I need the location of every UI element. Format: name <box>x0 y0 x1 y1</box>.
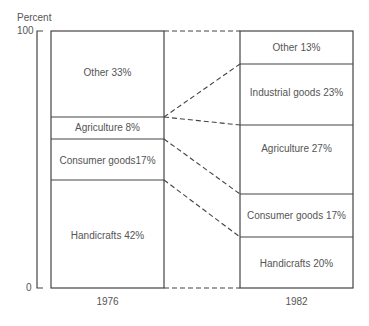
segment-label-1982-industrial-goods: Industrial goods 23% <box>240 87 353 98</box>
bar-1982-labels: Other 13% Industrial goods 23% Agricultu… <box>240 31 353 288</box>
segment-label-1976-agriculture: Agriculture 8% <box>51 122 164 133</box>
segment-label-1976-handicrafts: Handicrafts 42% <box>51 230 164 241</box>
segment-label-1982-consumer-goods: Consumer goods 17% <box>240 210 353 221</box>
x-label-1976: 1976 <box>51 296 164 307</box>
segment-label-1976-other: Other 33% <box>51 67 164 78</box>
x-label-1982: 1982 <box>240 296 353 307</box>
y-axis-label: Percent <box>17 12 51 23</box>
connector-lines <box>164 31 240 288</box>
y-axis <box>37 31 43 288</box>
bar-1976-labels: Other 33% Agriculture 8% Consumer goods1… <box>51 31 164 288</box>
segment-label-1982-handicrafts: Handicrafts 20% <box>240 258 353 269</box>
segment-label-1982-other: Other 13% <box>240 42 353 53</box>
y-tick-100: 100 <box>17 25 34 36</box>
segment-label-1976-consumer-goods: Consumer goods17% <box>51 155 164 166</box>
y-tick-0: 0 <box>26 282 32 293</box>
segment-label-1982-agriculture: Agriculture 27% <box>240 143 353 154</box>
